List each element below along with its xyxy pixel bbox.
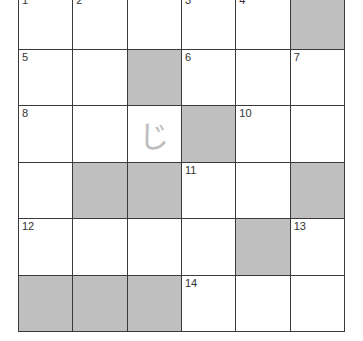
shaded-cell-r3-c2: [128, 163, 181, 219]
shaded-cell-r5-c2: [128, 276, 181, 332]
shaded-cell-r2-c3: [182, 106, 235, 162]
crossword-canvas: 1 2 3 4 5 6 7 8 じ 10 11 12 13: [0, 0, 363, 341]
cell-r5-c3[interactable]: 14: [182, 276, 235, 332]
cell-r2-c4[interactable]: 10: [236, 106, 289, 162]
clue-number: 11: [185, 165, 196, 176]
shaded-cell-r5-c1: [73, 276, 126, 332]
cell-r2-c0[interactable]: 8: [19, 106, 72, 162]
cell-r1-c0[interactable]: 5: [19, 50, 72, 106]
clue-number: 2: [76, 0, 82, 6]
cell-r3-c4[interactable]: [236, 163, 289, 219]
shaded-cell-r5-c0: [19, 276, 72, 332]
cell-r0-c3[interactable]: 3: [182, 0, 235, 49]
clue-number: 10: [239, 108, 251, 119]
shaded-cell-r1-c2: [128, 50, 181, 106]
shaded-cell-r4-c4: [236, 219, 289, 275]
cell-r0-c1[interactable]: 2: [73, 0, 126, 49]
cell-r2-c5[interactable]: [291, 106, 344, 162]
cell-r3-c3[interactable]: 11: [182, 163, 235, 219]
cell-entry: じ: [128, 112, 181, 156]
cell-r3-c0[interactable]: [19, 163, 72, 219]
clue-number: 13: [294, 221, 306, 232]
cell-r1-c3[interactable]: 6: [182, 50, 235, 106]
cell-r4-c2[interactable]: [128, 219, 181, 275]
cell-r0-c2[interactable]: [128, 0, 181, 49]
cell-r2-c2[interactable]: じ: [128, 106, 181, 162]
shaded-cell-r3-c5: [291, 163, 344, 219]
cell-r4-c1[interactable]: [73, 219, 126, 275]
cell-r0-c4[interactable]: 4: [236, 0, 289, 49]
clue-number: 14: [185, 278, 197, 289]
cell-r2-c1[interactable]: [73, 106, 126, 162]
cell-r1-c4[interactable]: [236, 50, 289, 106]
clue-number: 4: [239, 0, 245, 6]
clue-number: 6: [185, 52, 191, 63]
cell-r1-c1[interactable]: [73, 50, 126, 106]
cell-r1-c5[interactable]: 7: [291, 50, 344, 106]
clue-number: 1: [22, 0, 28, 6]
cell-r5-c5[interactable]: [291, 276, 344, 332]
shaded-cell-r3-c1: [73, 163, 126, 219]
clue-number: 7: [294, 52, 300, 63]
clue-number: 8: [22, 108, 28, 119]
shaded-cell-r0-c5: [291, 0, 344, 49]
cell-r4-c5[interactable]: 13: [291, 219, 344, 275]
crossword-grid: 1 2 3 4 5 6 7 8 じ 10 11 12 13: [18, 0, 345, 332]
cell-r4-c3[interactable]: [182, 219, 235, 275]
cell-r5-c4[interactable]: [236, 276, 289, 332]
cell-r0-c0[interactable]: 1: [19, 0, 72, 49]
clue-number: 5: [22, 52, 28, 63]
clue-number: 3: [185, 0, 191, 6]
clue-number: 12: [22, 221, 34, 232]
cell-r4-c0[interactable]: 12: [19, 219, 72, 275]
